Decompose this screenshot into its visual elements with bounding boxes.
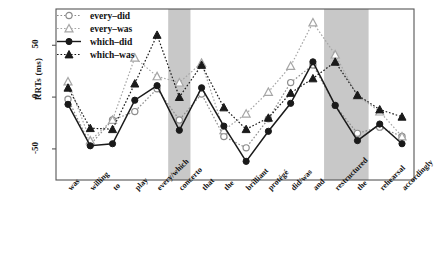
data-point-every-was-11	[309, 18, 317, 25]
data-point-every-did-5	[176, 117, 182, 123]
legend-item-which-was: which–was	[56, 48, 176, 61]
data-point-which-did-1	[87, 143, 93, 149]
data-point-which-did-2	[109, 141, 115, 147]
legend-item-every-did: every–did	[56, 9, 176, 22]
legend-label-which-was: which–was	[90, 50, 134, 60]
data-point-every-did-13	[354, 130, 360, 136]
data-point-which-did-legend	[66, 38, 72, 44]
legend-marker-which-did	[56, 35, 82, 48]
legend-label-which-did: which–did	[90, 37, 132, 47]
data-point-every-did-8	[243, 145, 249, 151]
data-point-which-was-1	[86, 124, 94, 131]
legend-label-every-was: every–was	[90, 24, 132, 34]
data-point-which-did-3	[132, 97, 138, 103]
data-point-which-was-8	[242, 125, 250, 132]
data-point-which-did-15	[399, 141, 405, 147]
data-point-which-did-6	[199, 85, 205, 91]
legend-marker-every-was	[56, 22, 82, 35]
data-point-which-was-2	[109, 125, 117, 132]
data-point-which-did-14	[377, 121, 383, 127]
data-point-which-was-11	[309, 74, 317, 81]
legend-label-every-did: every–did	[90, 11, 130, 21]
data-point-which-did-0	[65, 101, 71, 107]
data-point-which-did-12	[332, 102, 338, 108]
legend-marker-every-did	[56, 9, 82, 22]
data-point-which-did-7	[221, 123, 227, 129]
data-point-every-did-3	[132, 109, 138, 115]
data-point-every-did-10	[288, 79, 294, 85]
data-point-which-did-4	[154, 83, 160, 89]
data-point-every-was-4	[153, 72, 161, 79]
legend-item-which-did: which–did	[56, 35, 176, 48]
data-point-every-did-legend	[66, 12, 72, 18]
data-point-which-did-13	[354, 138, 360, 144]
data-point-which-did-11	[310, 59, 316, 65]
data-point-which-did-10	[288, 100, 294, 106]
data-point-which-was-10	[287, 89, 295, 96]
data-point-which-did-9	[265, 128, 271, 134]
shaded-region-1	[324, 9, 369, 180]
data-point-which-was-7	[220, 103, 228, 110]
data-point-every-was-10	[287, 62, 295, 69]
data-point-which-did-5	[176, 127, 182, 133]
data-point-every-did-7	[221, 133, 227, 139]
legend-marker-which-was	[56, 48, 82, 61]
data-point-which-did-8	[243, 158, 249, 164]
legend-item-every-was: every–was	[56, 22, 176, 35]
chart-legend: every–didevery–waswhich–didwhich–was	[56, 9, 176, 61]
data-point-which-was-3	[131, 80, 139, 87]
